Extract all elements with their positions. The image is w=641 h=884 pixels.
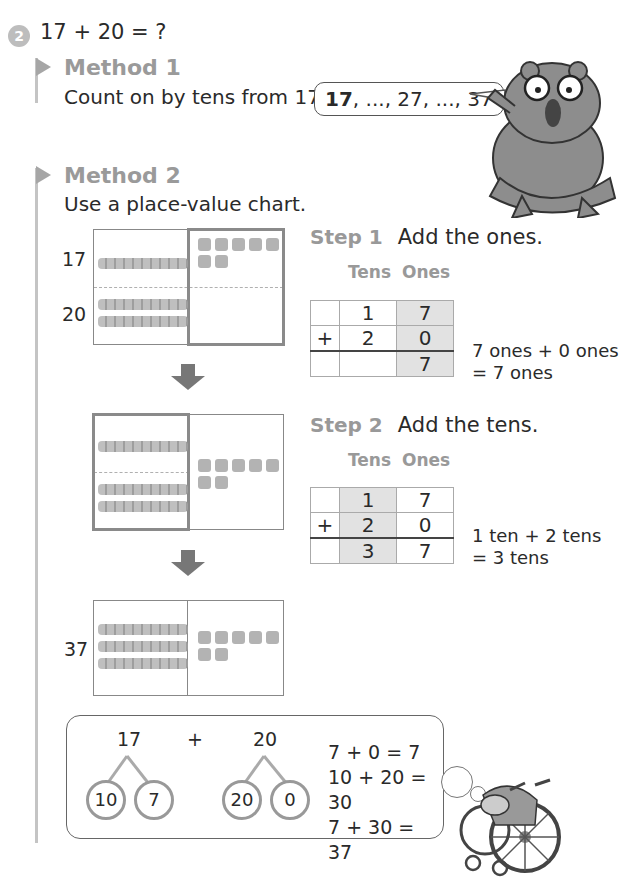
- step2-text: Add the tens.: [398, 413, 539, 437]
- tens-rod: [98, 641, 188, 652]
- ones-cube: [198, 255, 211, 268]
- step2-col-ones: Ones: [402, 450, 450, 470]
- down-arrow-stem: [181, 364, 195, 376]
- step2-heading: Step 2 Add the tens.: [310, 413, 538, 437]
- bond-right-whole: 20: [253, 728, 277, 750]
- bubble-bold-start: 17: [325, 87, 353, 111]
- hedgehog-wheelchair-icon: [455, 775, 565, 880]
- bond-part-circle: 7: [134, 780, 174, 820]
- method2-title: Method 2: [64, 163, 181, 188]
- step2-explanation: 1 ten + 2 tens = 3 tens: [472, 525, 601, 569]
- step2-label: Step 2: [310, 413, 383, 437]
- ones-cube: [249, 631, 262, 644]
- method1-instruction: Count on by tens from 17.: [64, 85, 326, 109]
- ones-cube: [266, 238, 279, 251]
- ones-cube: [198, 631, 211, 644]
- question-number-badge: 2: [8, 25, 30, 47]
- ones-cube: [215, 459, 228, 472]
- tens-highlight: [92, 413, 190, 531]
- tens-rod: [98, 258, 188, 269]
- ones-cube: [198, 648, 211, 661]
- place-value-chart-3: [93, 600, 284, 696]
- ones-cube: [249, 238, 262, 251]
- question-text: 17 + 20 = ?: [40, 20, 166, 44]
- method1-flag-icon: [36, 58, 51, 76]
- step1-col-tens: Tens: [348, 262, 391, 282]
- step2-col-tens: Tens: [348, 450, 391, 470]
- down-arrow-icon: [171, 562, 205, 576]
- tens-rod: [98, 658, 188, 669]
- bond-part-circle: 0: [270, 780, 310, 820]
- down-arrow-stem: [181, 550, 195, 562]
- down-arrow-icon: [171, 376, 205, 390]
- bond-part-circle: 10: [86, 780, 126, 820]
- ones-cube: [266, 459, 279, 472]
- chart1-label-17: 17: [62, 248, 86, 270]
- tens-rod: [98, 299, 188, 310]
- bond-equations: 7 + 0 = 7 10 + 20 = 30 7 + 30 = 37: [328, 740, 443, 865]
- step1-explanation: 7 ones + 0 ones = 7 ones: [472, 340, 619, 384]
- step1-col-ones: Ones: [402, 262, 450, 282]
- place-value-chart-2: [93, 414, 284, 530]
- number-bond-box: 17 + 20 10 7 20 0 7 + 0 = 7 10 + 20 = 30…: [66, 715, 444, 839]
- ones-cube: [266, 631, 279, 644]
- ones-cube: [198, 459, 211, 472]
- ones-cube: [232, 459, 245, 472]
- step1-heading: Step 1 Add the ones.: [310, 225, 543, 249]
- tens-rod: [98, 501, 188, 512]
- ones-cube: [215, 255, 228, 268]
- method2-instruction: Use a place-value chart.: [64, 192, 306, 216]
- bear-character-icon: [470, 28, 635, 218]
- step2-addition-table: 1 7 + 2 0 3 7: [310, 487, 454, 564]
- ones-cube: [249, 459, 262, 472]
- method1-title: Method 1: [64, 55, 181, 80]
- tens-rod: [98, 441, 188, 452]
- step1-text: Add the ones.: [398, 225, 543, 249]
- place-value-chart-1: [93, 229, 284, 345]
- chart3-label-37: 37: [64, 638, 88, 660]
- method2-flag-icon: [36, 166, 51, 184]
- tens-rod: [98, 484, 188, 495]
- ones-cube: [198, 476, 211, 489]
- ones-cube: [215, 648, 228, 661]
- bond-part-circle: 20: [222, 780, 262, 820]
- tens-rod: [98, 316, 188, 327]
- tens-rod: [98, 624, 188, 635]
- ones-cube: [232, 631, 245, 644]
- ones-cube: [215, 476, 228, 489]
- step1-addition-table: 1 7 + 2 0 7: [310, 300, 454, 377]
- ones-cube: [232, 238, 245, 251]
- step1-label: Step 1: [310, 225, 383, 249]
- bond-plus: +: [187, 728, 203, 750]
- ones-cube: [215, 631, 228, 644]
- ones-cube: [215, 238, 228, 251]
- method2-line: [35, 168, 38, 843]
- chart1-label-20: 20: [62, 303, 86, 325]
- ones-cube: [198, 238, 211, 251]
- bond-left-whole: 17: [117, 728, 141, 750]
